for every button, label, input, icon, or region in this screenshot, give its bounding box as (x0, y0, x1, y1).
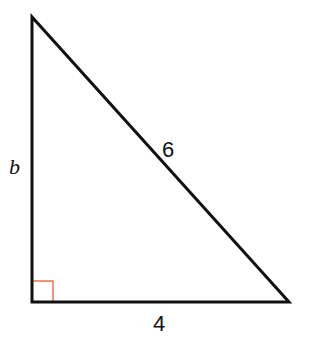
label-hypotenuse: 6 (162, 137, 174, 162)
right-triangle-diagram: b 6 4 (0, 0, 312, 343)
label-base: 4 (153, 311, 165, 336)
right-angle-marker (32, 281, 53, 302)
triangle-outline (32, 17, 289, 302)
label-side-b: b (9, 154, 20, 179)
